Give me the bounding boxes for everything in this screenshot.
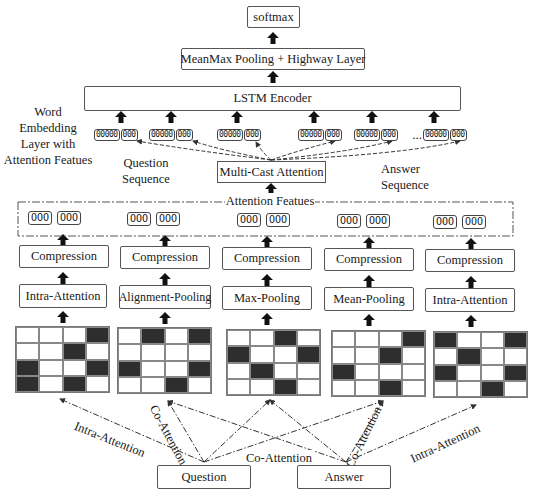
matrix-cell-empty (16, 343, 39, 359)
matrix-cell-empty (39, 343, 62, 359)
up-arrow-icon (261, 274, 273, 286)
compression-label: Compression (437, 253, 503, 268)
operation-label: Alignment-Pooling (119, 290, 212, 305)
feature-part: 000 (121, 129, 138, 141)
question-label: Question (181, 470, 226, 485)
label-line: Embedding (2, 120, 94, 136)
attention-matrix (15, 326, 110, 393)
matrix-cell-filled (457, 348, 480, 364)
matrix-cell-empty (434, 381, 457, 397)
operation-label: Max-Pooling (234, 291, 300, 306)
matrix-cell-empty (250, 330, 273, 346)
operation-box-intra-attention: Intra-Attention (19, 284, 107, 308)
edge-label-co-attention: Co-Attention (244, 450, 314, 466)
up-arrow-icon (363, 275, 375, 287)
matrix-cell-empty (504, 348, 527, 364)
matrix-cell-empty (227, 379, 250, 395)
matrix-cell-empty (63, 327, 86, 343)
matrix-cell-empty (39, 360, 62, 376)
attention-feature-pair: OOO OOO (127, 212, 180, 226)
compression-label: Compression (234, 251, 300, 266)
matrix-cell-empty (63, 360, 86, 376)
matrix-cell-empty (86, 376, 109, 392)
matrix-cell-filled (86, 327, 109, 343)
matrix-cell-empty (481, 365, 504, 381)
matrix-cell-filled (379, 380, 402, 396)
matrix-cell-empty (39, 327, 62, 343)
matrix-cell-empty (86, 343, 109, 359)
answer-sequence-label: Answer Sequence (381, 161, 429, 193)
compression-box: Compression (324, 248, 414, 271)
up-arrow-icon (428, 111, 440, 123)
question-word-vector: 00000 000 (217, 129, 261, 141)
matrix-cell-empty (457, 332, 480, 348)
attention-matrix (226, 329, 321, 396)
matrix-cell-empty (297, 379, 320, 395)
ellipsis: ... (410, 127, 424, 143)
up-arrow-icon (159, 312, 171, 324)
matrix-cell-empty (355, 364, 378, 380)
matrix-cell-empty (434, 348, 457, 364)
matrix-cell-filled (250, 363, 273, 379)
answer-input-box: Answer (297, 465, 391, 489)
matrix-cell-filled (434, 365, 457, 381)
word-embedding-part: 00000 (94, 129, 120, 141)
matrix-cell-empty (274, 346, 297, 362)
compression-box: Compression (222, 247, 312, 270)
matrix-cell-empty (481, 348, 504, 364)
matrix-cell-empty (379, 331, 402, 347)
feature-vector: OOO (433, 215, 457, 229)
question-word-vector: 00000 000 (149, 129, 193, 141)
word-embedding-layer-label: Word Embedding Layer with Attention Feat… (2, 104, 94, 168)
label-line: Word (2, 104, 94, 120)
meanmax-highway-box: MeanMax Pooling + Highway Layer (181, 48, 365, 70)
up-arrow-icon (261, 313, 273, 325)
matrix-cell-empty (402, 380, 425, 396)
matrix-cell-empty (16, 327, 39, 343)
matrix-cell-filled (481, 381, 504, 397)
matrix-cell-filled (227, 346, 250, 362)
matrix-cell-empty (332, 331, 355, 347)
matrix-cell-filled (274, 379, 297, 395)
matrix-cell-filled (118, 361, 141, 377)
matrix-cell-filled (141, 328, 164, 344)
feature-part: 000 (244, 129, 261, 141)
matrix-cell-empty (457, 365, 480, 381)
compression-label: Compression (336, 252, 402, 267)
label-line: Layer with (2, 136, 94, 152)
multi-cast-attention-label: Multi-Cast Attention (220, 165, 324, 180)
word-embedding-part: 00000 (149, 129, 175, 141)
attention-matrix (117, 327, 212, 394)
matrix-cell-empty (188, 377, 211, 393)
multicast-links (137, 141, 460, 160)
matrix-cell-filled (63, 376, 86, 392)
matrix-cell-empty (39, 376, 62, 392)
matrix-cell-empty (165, 361, 188, 377)
feature-vector: OOO (28, 211, 52, 225)
matrix-cell-empty (141, 361, 164, 377)
attention-feature-pair: OOO OOO (237, 213, 290, 227)
attention-matrix (331, 330, 426, 397)
up-arrow-icon (159, 273, 171, 285)
label-line: Answer (381, 161, 429, 177)
matrix-cell-filled (188, 328, 211, 344)
matrix-cell-empty (141, 344, 164, 360)
feature-part: 000 (450, 129, 467, 141)
matrix-cell-empty (402, 364, 425, 380)
matrix-cell-empty (165, 344, 188, 360)
compression-label: Compression (132, 250, 198, 265)
matrix-cell-empty (504, 381, 527, 397)
feature-part: 000 (176, 129, 193, 141)
lstm-encoder-label: LSTM Encoder (233, 91, 311, 106)
matrix-cell-filled (86, 360, 109, 376)
word-embedding-part: 00000 (217, 129, 243, 141)
matrix-cell-filled (402, 331, 425, 347)
answer-label: Answer (325, 470, 364, 485)
operation-box-alignment-pooling: Alignment-Pooling (119, 285, 211, 309)
attention-feature-pair: OOO OOO (337, 214, 390, 228)
compression-label: Compression (31, 249, 97, 264)
meanmax-highway-label: MeanMax Pooling + Highway Layer (181, 52, 366, 67)
matrix-cell-empty (118, 377, 141, 393)
feature-vector: OOO (266, 213, 290, 227)
matrix-cell-empty (355, 331, 378, 347)
